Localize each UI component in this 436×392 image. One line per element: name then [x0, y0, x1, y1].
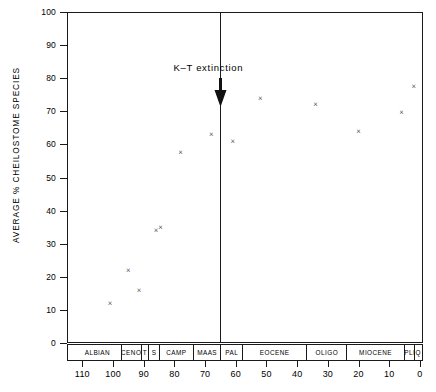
y-tick-label: 70 [0, 107, 56, 116]
stage-label: Q [415, 349, 420, 356]
stage-cell: CAMP [160, 345, 194, 360]
stage-cell: MIOCENE [347, 345, 405, 360]
x-tick-label: 100 [98, 370, 128, 379]
stage-cell: CENO [122, 345, 142, 360]
data-point: × [156, 223, 165, 232]
data-point: × [397, 108, 406, 117]
down-arrow-icon [214, 78, 227, 112]
data-point: × [256, 94, 265, 103]
stage-label: S [152, 349, 157, 356]
figure-cheilostome-species-vs-time: 0102030405060708090100 AVERAGE % CHEILOS… [0, 0, 436, 392]
x-tick-label: 90 [129, 370, 159, 379]
y-tick [60, 277, 67, 278]
y-tick-label: 30 [0, 240, 56, 249]
x-tick [236, 361, 237, 367]
x-tick [359, 361, 360, 367]
x-tick [266, 361, 267, 367]
x-tick-label: 20 [344, 370, 374, 379]
x-tick [144, 361, 145, 367]
y-tick-label: 100 [0, 8, 56, 17]
y-tick [60, 244, 67, 245]
stage-label: PLI [405, 349, 415, 356]
y-tick [60, 310, 67, 311]
stage-label: MAAS [197, 349, 217, 356]
stage-label: CENO [122, 349, 142, 356]
y-axis-title: AVERAGE % CHEILOSTOME SPECIES [11, 55, 21, 255]
stage-cell: ALBIAN [74, 345, 122, 360]
stage-label: CAMP [166, 349, 186, 356]
stage-cell: T [142, 345, 150, 360]
x-tick [82, 361, 83, 367]
y-tick [60, 111, 67, 112]
data-point: × [207, 130, 216, 139]
data-point: × [354, 127, 363, 136]
data-point: × [409, 82, 418, 91]
x-tick [420, 361, 421, 367]
x-tick [328, 361, 329, 367]
x-tick-label: 70 [190, 370, 220, 379]
stage-cell: Q [415, 345, 421, 360]
y-tick-label: 40 [0, 207, 56, 216]
y-tick-label: 50 [0, 174, 56, 183]
y-tick [60, 78, 67, 79]
y-tick-label: 90 [0, 41, 56, 50]
plot-frame [67, 12, 423, 343]
stage-cell: PLI [405, 345, 415, 360]
y-tick-label: 10 [0, 306, 56, 315]
data-point: × [105, 299, 114, 308]
y-tick-label: 20 [0, 273, 56, 282]
x-tick-label: 110 [67, 370, 97, 379]
data-point: × [228, 137, 237, 146]
x-tick [113, 361, 114, 367]
y-tick [60, 343, 67, 344]
data-point: × [311, 100, 320, 109]
x-tick-label: 10 [374, 370, 404, 379]
y-tick [60, 45, 67, 46]
x-tick [297, 361, 298, 367]
y-tick [60, 144, 67, 145]
stage-label: OLIGO [316, 349, 339, 356]
y-tick [60, 211, 67, 212]
data-point: × [124, 266, 133, 275]
x-tick-label: 50 [251, 370, 281, 379]
stage-label: EOCENE [260, 349, 290, 356]
stage-label: MIOCENE [359, 349, 392, 356]
x-tick-label: 80 [159, 370, 189, 379]
x-tick [205, 361, 206, 367]
y-tick-label: 60 [0, 140, 56, 149]
stage-cell: MAAS [194, 345, 222, 360]
x-tick-label: 30 [313, 370, 343, 379]
geologic-stage-bar: ALBIANCENOTSCAMPMAASPALEOCENEOLIGOMIOCEN… [67, 344, 423, 361]
y-tick-label: 0 [0, 339, 56, 348]
stage-label: ALBIAN [85, 349, 110, 356]
stage-cell: PAL [221, 345, 242, 360]
stage-cell: OLIGO [307, 345, 347, 360]
stage-cell: S [149, 345, 160, 360]
x-tick [389, 361, 390, 367]
x-tick-label: 0 [405, 370, 435, 379]
stage-cell: EOCENE [243, 345, 307, 360]
data-point: × [135, 286, 144, 295]
k-t-extinction-label: K–T extinction [173, 62, 243, 73]
stage-label: PAL [225, 349, 238, 356]
x-tick [174, 361, 175, 367]
y-tick [60, 178, 67, 179]
x-tick-label: 40 [282, 370, 312, 379]
data-point: × [176, 148, 185, 157]
stage-label: T [143, 349, 147, 356]
y-tick [60, 12, 67, 13]
y-tick-label: 80 [0, 74, 56, 83]
x-tick-label: 60 [221, 370, 251, 379]
